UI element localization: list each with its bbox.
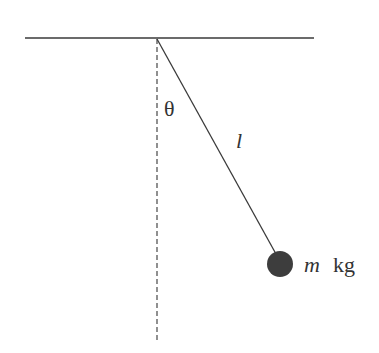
angle-label: θ [164,96,175,121]
pendulum-bob [267,251,293,277]
length-label: l [236,128,242,153]
mass-symbol-label: m [304,252,320,277]
pendulum-diagram: θ l m kg [0,0,379,353]
pendulum-string [157,39,276,254]
mass-unit-label: kg [333,252,355,277]
